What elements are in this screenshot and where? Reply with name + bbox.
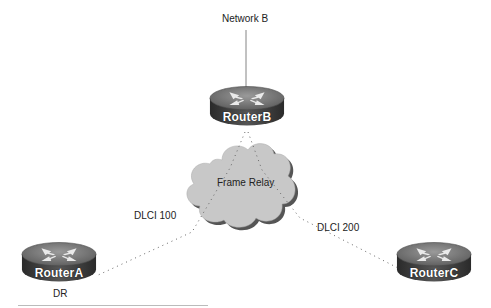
- router-b-label: RouterB: [209, 110, 285, 124]
- dr-label: DR: [53, 288, 67, 299]
- dlci-100-label: DLCI 100: [134, 210, 176, 221]
- network-diagram: [0, 0, 491, 308]
- dlci-200-label: DLCI 200: [317, 222, 359, 233]
- frame-relay-label: Frame Relay: [217, 177, 274, 188]
- bottom-rule: [18, 305, 208, 306]
- network-b-label: Network B: [222, 13, 268, 24]
- router-a-label: RouterA: [21, 266, 97, 280]
- router-c-label: RouterC: [396, 266, 472, 280]
